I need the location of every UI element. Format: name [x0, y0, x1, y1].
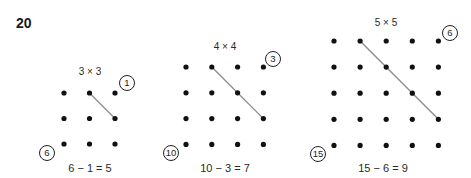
grid-dot [331, 38, 336, 43]
grid-dot [358, 117, 363, 122]
grid-size-label: 3 × 3 [79, 66, 102, 77]
grid-dot [112, 141, 117, 146]
grid-dot [358, 38, 363, 43]
grid-dot [331, 143, 336, 148]
bottom-left-count-circle: 6 [39, 145, 55, 161]
grid-dot [358, 65, 363, 70]
grid-dot [331, 117, 336, 122]
grid-dot [410, 65, 415, 70]
grid-dot [331, 91, 336, 96]
grid-dot [261, 116, 266, 121]
diagonal-line [90, 93, 116, 119]
grid-dot [183, 90, 188, 95]
equation: 10 − 3 = 7 [200, 162, 250, 174]
grid-dot [61, 90, 66, 95]
grid-dot [183, 142, 188, 147]
grid-dot [87, 141, 92, 146]
equation: 6 − 1 = 5 [68, 162, 111, 174]
top-right-count-circle: 3 [265, 51, 281, 67]
grid-dot [410, 143, 415, 148]
grid-dot [436, 91, 441, 96]
grid-dot [235, 64, 240, 69]
grid-dot [87, 116, 92, 121]
grid-dot [209, 116, 214, 121]
grid-dot [384, 143, 389, 148]
grid-dot [235, 90, 240, 95]
grid-dot [87, 90, 92, 95]
grid-dot [209, 142, 214, 147]
grid-dot [209, 90, 214, 95]
grid-size-label: 4 × 4 [214, 41, 237, 52]
grid-dot [112, 116, 117, 121]
grid-dot [384, 117, 389, 122]
grid-dot [410, 117, 415, 122]
grid-dot [112, 90, 117, 95]
top-right-count-circle: 1 [119, 75, 135, 91]
diagonal-line [360, 41, 438, 119]
grid-dot [261, 142, 266, 147]
grid-dot [410, 38, 415, 43]
bottom-left-count-circle: 15 [310, 146, 326, 162]
grid-dot [235, 142, 240, 147]
grid-dot [209, 64, 214, 69]
dot-grids-canvas [0, 0, 471, 178]
grid-dot [384, 91, 389, 96]
grid-dot [384, 65, 389, 70]
grid-dot [331, 65, 336, 70]
grid-dot [235, 116, 240, 121]
grid-dot [61, 116, 66, 121]
grid-dot [183, 116, 188, 121]
grid-size-label: 5 × 5 [375, 17, 398, 28]
grid-dot [436, 38, 441, 43]
grid-dot [358, 143, 363, 148]
grid-dot [436, 143, 441, 148]
top-right-count-circle: 6 [442, 25, 458, 41]
grid-dot [61, 141, 66, 146]
grid-dot [261, 90, 266, 95]
grid-dot [261, 64, 266, 69]
grid-dot [436, 65, 441, 70]
bottom-left-count-circle: 10 [163, 145, 179, 161]
grid-dot [410, 91, 415, 96]
grid-dot [384, 38, 389, 43]
grid-dot [183, 64, 188, 69]
equation: 15 − 6 = 9 [358, 162, 408, 174]
grid-dot [358, 91, 363, 96]
grid-dot [436, 117, 441, 122]
